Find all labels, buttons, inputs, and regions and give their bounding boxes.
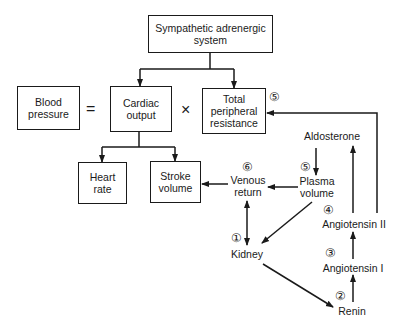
diagram-canvas: Sympathetic adrenergic system Blood pres… xyxy=(0,0,397,325)
step-2-renin: ② xyxy=(335,290,346,302)
cardiac-output-box: Cardiac output xyxy=(110,86,172,132)
venous-return-node: Venous return xyxy=(226,174,270,198)
angiotensin-ii-node: Angiotensin II xyxy=(320,218,388,230)
heart-rate-box: Heart rate xyxy=(78,162,127,204)
step-5-plasma-volume: ⑤ xyxy=(300,161,311,173)
aldosterone-node: Aldosterone xyxy=(300,130,364,142)
blood-pressure-box: Blood pressure xyxy=(17,86,80,130)
step-6-venous-return: ⑥ xyxy=(242,161,253,173)
sympathetic-system-box: Sympathetic adrenergic system xyxy=(148,15,273,53)
step-3-angiotensin-i: ③ xyxy=(325,247,336,259)
angiotensin-i-node: Angiotensin I xyxy=(320,262,386,274)
equals-operator: = xyxy=(86,101,95,117)
step-1-kidney: ① xyxy=(231,232,242,244)
kidney-node: Kidney xyxy=(228,248,266,260)
plasma-volume-node: Plasma volume xyxy=(297,175,337,199)
stroke-volume-box: Stroke volume xyxy=(150,161,201,203)
renin-node: Renin xyxy=(336,305,368,317)
step-5-tpr: ⑤ xyxy=(269,91,280,103)
total-peripheral-resistance-box: Total peripheral resistance xyxy=(202,88,266,134)
times-operator: × xyxy=(181,102,190,118)
step-4-angiotensin-ii: ④ xyxy=(323,204,334,216)
